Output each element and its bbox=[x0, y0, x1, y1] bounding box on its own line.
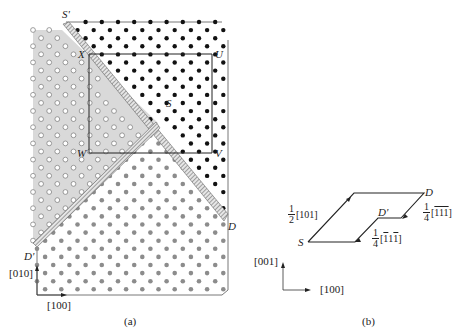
axis-100-arrowhead bbox=[61, 293, 67, 297]
figure-canvas bbox=[0, 0, 458, 335]
caption-a: (a) bbox=[124, 316, 136, 327]
vector-quarter-1bar11bar: 14 [111] bbox=[372, 228, 402, 249]
axis-001-arrowhead bbox=[281, 262, 285, 268]
vector-quarter-111bar: 14 [111] bbox=[423, 202, 452, 223]
caption-b: (b) bbox=[362, 316, 375, 327]
label-u: U bbox=[215, 49, 223, 60]
vector-half-101: 12 [101] bbox=[288, 204, 318, 225]
axis-label-100: [100] bbox=[47, 300, 71, 311]
label-v: V bbox=[215, 148, 222, 159]
label-x: X bbox=[78, 49, 85, 60]
label-s-prime: S' bbox=[62, 9, 70, 20]
label-b-s: S bbox=[298, 237, 304, 248]
label-b-d-prime: D' bbox=[378, 207, 388, 218]
axis-label-001: [001] bbox=[254, 256, 278, 267]
axis-label-100b: [100] bbox=[320, 284, 344, 295]
axis-100b-arrowhead bbox=[305, 288, 311, 292]
label-d: D bbox=[228, 221, 236, 232]
burgers-loop bbox=[308, 193, 424, 242]
label-b-d: D bbox=[425, 187, 433, 198]
label-d-prime: D' bbox=[24, 251, 34, 262]
label-w: W bbox=[77, 148, 86, 159]
panel-a bbox=[31, 20, 228, 297]
label-s: S bbox=[166, 98, 172, 109]
axis-label-010: [010] bbox=[9, 268, 33, 279]
